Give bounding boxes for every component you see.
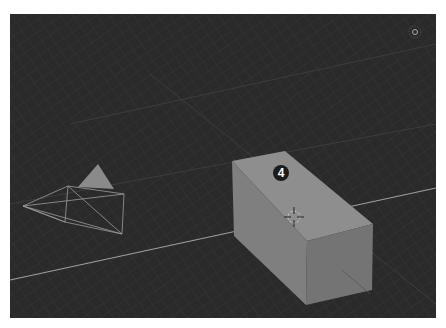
scene-canvas[interactable]	[10, 14, 436, 318]
view-gizmo-icon[interactable]	[407, 24, 423, 40]
step-number-badge: 4	[273, 165, 289, 181]
3d-viewport[interactable]: 4	[10, 14, 436, 318]
